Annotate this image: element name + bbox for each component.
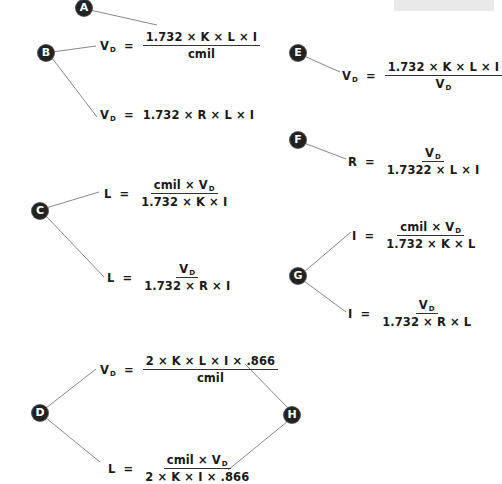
connector-a [90, 10, 157, 25]
numerator: VD [416, 298, 438, 314]
connector-b1 [52, 46, 96, 52]
lhs-subscript: D [110, 115, 116, 123]
denominator: 1.7322 × L × I [384, 162, 483, 177]
connector-d1 [46, 369, 96, 408]
formula-c2: L = VD 1.732 × R × I [107, 262, 233, 293]
equals-sign: = [366, 69, 376, 83]
connector-c1 [46, 192, 99, 208]
denominator: 1.732 × R × I [141, 278, 233, 293]
numerator: cmil × VD [164, 453, 231, 469]
lhs: I [348, 307, 352, 321]
denominator: 2 × K × I × .866 [142, 469, 252, 484]
fraction: 1.732 × K × L × I cmil [143, 30, 261, 61]
connector-g2 [304, 281, 346, 312]
connector-g1 [304, 232, 351, 272]
equals-sign: = [124, 39, 134, 53]
lhs: R [348, 155, 357, 169]
rhs: 1.732 × R × L × I [143, 108, 254, 122]
lhs: V [342, 69, 351, 83]
equals-sign: = [124, 363, 134, 377]
numerator: VD [422, 146, 444, 162]
formula-d1: VD = 2 × K × L × I × .866 cmil [100, 354, 278, 385]
lhs: V [100, 39, 109, 53]
lhs: V [100, 363, 109, 377]
formula-g2: I = VD 1.732 × R × L [348, 298, 474, 329]
lhs: L [107, 271, 114, 285]
denominator: 1.732 × K × I [138, 194, 230, 209]
denominator: 1.732 × K × L [383, 236, 478, 251]
connector-c2 [46, 216, 104, 277]
denominator: 1.732 × R × L [379, 314, 474, 329]
lhs-subscript: D [110, 46, 116, 54]
denominator: VD [432, 76, 454, 91]
equals-sign: = [124, 108, 134, 122]
formula-e1: VD = 1.732 × K × L × I VD [342, 60, 502, 91]
formula-g1: I = cmil × VD 1.732 × K × L [352, 220, 478, 251]
badge-d: D [32, 405, 48, 421]
fraction: 2 × K × L × I × .866 cmil [143, 354, 278, 385]
denominator: cmil [185, 46, 218, 61]
lhs-subscript: D [110, 370, 116, 378]
fraction: VD 1.732 × R × I [141, 262, 233, 293]
fraction: VD 1.732 × R × L [379, 298, 474, 329]
equals-sign: = [360, 307, 370, 321]
badge-e: E [290, 45, 306, 61]
lhs: L [104, 187, 111, 201]
lhs: V [100, 108, 109, 122]
fraction: cmil × VD 2 × K × I × .866 [142, 453, 252, 484]
fraction: cmil × VD 1.732 × K × L [383, 220, 478, 251]
badge-h: H [284, 407, 300, 423]
equals-sign: = [122, 271, 132, 285]
fraction: cmil × VD 1.732 × K × I [138, 178, 230, 209]
denominator: cmil [194, 370, 227, 385]
formula-b2: VD = 1.732 × R × L × I [100, 108, 254, 122]
equals-sign: = [123, 462, 133, 476]
connector-e [304, 56, 340, 72]
fraction: 1.732 × K × L × I VD [385, 60, 502, 91]
formula-d2: L = cmil × VD 2 × K × I × .866 [108, 453, 252, 484]
equals-sign: = [365, 155, 375, 169]
badge-c: C [32, 203, 48, 219]
lhs-subscript: D [352, 76, 358, 84]
equals-sign: = [364, 229, 374, 243]
lhs: L [108, 462, 115, 476]
connector-f [304, 143, 346, 159]
connector-b2 [52, 58, 97, 117]
numerator: 1.732 × K × L × I [385, 60, 502, 76]
numerator: VD [176, 262, 198, 278]
badge-b: B [38, 45, 54, 61]
numerator: 2 × K × L × I × .866 [143, 354, 278, 370]
connector-d2 [46, 418, 100, 462]
numerator: cmil × VD [151, 178, 218, 194]
lhs: I [352, 229, 356, 243]
badge-g: G [290, 268, 306, 284]
badge-f: F [290, 132, 306, 148]
badge-a: A [76, 0, 92, 16]
numerator: cmil × VD [397, 220, 464, 236]
formula-b1: VD = 1.732 × K × L × I cmil [100, 30, 260, 61]
fraction: VD 1.7322 × L × I [384, 146, 483, 177]
equals-sign: = [119, 187, 129, 201]
formula-f1: R = VD 1.7322 × L × I [348, 146, 482, 177]
numerator: 1.732 × K × L × I [143, 30, 261, 46]
formula-c1: L = cmil × VD 1.732 × K × I [104, 178, 230, 209]
